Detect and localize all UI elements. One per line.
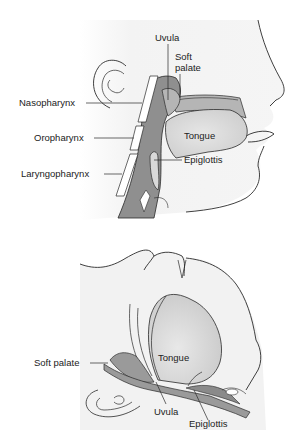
label-oropharynx: Oropharynx — [34, 133, 84, 143]
supine-head-illustration — [0, 0, 298, 440]
label-uvula: Uvula — [155, 33, 179, 43]
label-nasopharynx: Nasopharynx — [19, 98, 75, 108]
label-supine-tongue: Tongue — [158, 353, 189, 363]
label-soft-palate-line2: palate — [175, 63, 201, 73]
label-tongue: Tongue — [184, 131, 215, 141]
label-soft-palate-line1: Soft — [175, 52, 192, 62]
label-supine-epiglottis: Epiglottis — [189, 419, 228, 429]
airway-anatomy-diagram: Uvula Soft palate Nasopharynx Oropharynx… — [0, 0, 298, 440]
label-laryngopharynx: Laryngopharynx — [21, 169, 89, 179]
label-epiglottis: Epiglottis — [184, 155, 223, 165]
label-supine-soft-palate: Soft palate — [34, 358, 79, 368]
label-supine-uvula: Uvula — [154, 407, 178, 417]
